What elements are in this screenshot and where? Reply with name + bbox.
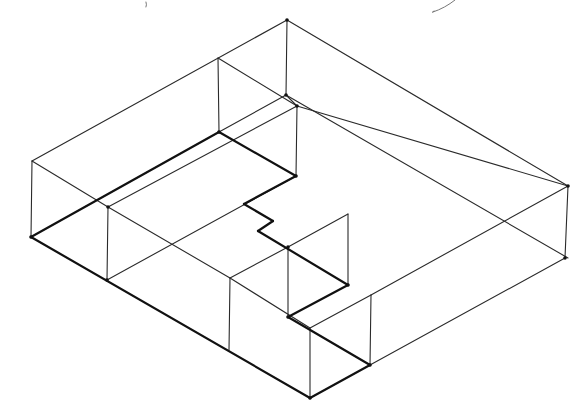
wireframe-edge <box>286 95 568 258</box>
wireframe-edge <box>229 278 230 350</box>
wireframe-edge <box>297 106 568 186</box>
floor-outline-edge <box>288 317 370 365</box>
floor-outline-edge <box>219 132 296 176</box>
wireframe-edge <box>370 258 565 365</box>
vertex-markers <box>29 18 570 400</box>
vertex-dot <box>285 18 289 22</box>
vertex-dot <box>284 93 288 97</box>
vertex-dot <box>566 184 570 188</box>
wireframe-edge <box>288 214 348 247</box>
floor-outline-edge <box>31 237 310 398</box>
vertex-dot <box>295 104 299 108</box>
vertex-dot <box>217 130 221 134</box>
wireframe-edge <box>218 58 219 132</box>
wireframe-edge <box>286 20 287 95</box>
wireframe-edge <box>230 278 310 328</box>
handwriting-stroke <box>146 2 147 7</box>
floor-outline-edge <box>31 132 219 237</box>
wireframe-edge <box>370 295 371 365</box>
wireframe-edge <box>219 95 286 132</box>
wireframe-edge <box>565 186 568 258</box>
vertex-dot <box>286 245 290 249</box>
vertex-dot <box>368 363 372 367</box>
vertex-dot <box>286 315 290 319</box>
wireframe-edge <box>296 106 297 176</box>
vertex-dot <box>106 205 110 209</box>
vertex-dot <box>563 256 567 260</box>
thin-wireframe-lines <box>31 20 568 398</box>
thick-floor-outline-lines <box>31 132 370 398</box>
vertex-dot <box>105 278 109 282</box>
wireframe-edge <box>31 161 32 237</box>
floor-outline-edge <box>244 204 273 221</box>
wireframe-edge <box>107 207 108 280</box>
vertex-dot <box>346 283 350 287</box>
isometric-room-diagram <box>0 0 579 403</box>
wireframe-edge <box>108 207 230 278</box>
wireframe-edge <box>287 20 568 186</box>
floor-outline-edge <box>310 365 370 398</box>
wireframe-edge <box>218 58 297 106</box>
wireframe-edge <box>32 20 287 161</box>
vertex-dot <box>29 235 33 239</box>
vertex-dot <box>294 174 298 178</box>
wireframe-edge <box>230 247 288 278</box>
floor-outline-edge <box>244 176 296 204</box>
vertex-dot <box>308 396 312 400</box>
handwritten-annotation-strokes <box>146 0 455 12</box>
handwriting-stroke <box>432 0 455 12</box>
floor-outline-edge <box>258 221 273 231</box>
